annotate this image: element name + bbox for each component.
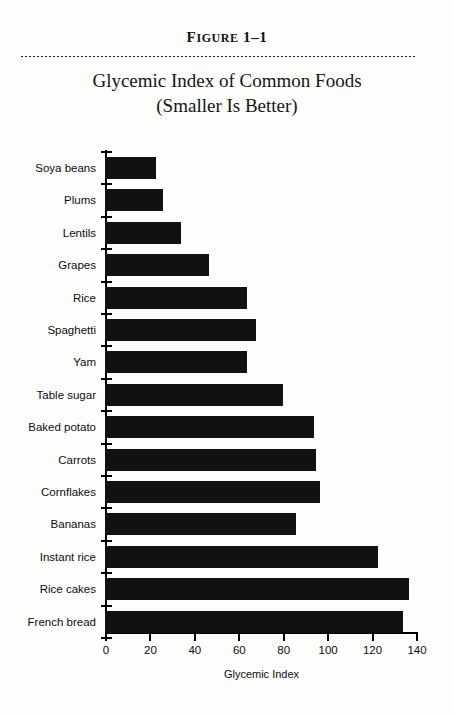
y-axis-tick [101,248,112,250]
y-axis-label: Rice [0,292,96,304]
y-axis-tick [101,281,112,283]
y-axis-label: Cornflakes [0,486,96,498]
x-axis-tick [283,632,285,641]
bar [105,222,181,244]
x-axis-tick [372,632,374,641]
y-axis-tick [101,507,112,509]
dotted-divider [20,55,416,58]
y-axis-label: Spaghetti [0,324,96,336]
bar [105,319,256,341]
y-axis-label: Table sugar [0,389,96,401]
bar [105,157,156,179]
y-axis-label: French bread [0,616,96,628]
y-axis-label: Rice cakes [0,583,96,595]
y-axis-tick [101,410,112,412]
y-axis-tick [101,443,112,445]
y-axis-label: Plums [0,194,96,206]
bar [105,189,163,211]
bar [105,254,209,276]
y-axis-tick [101,540,112,542]
bar [105,513,296,535]
x-axis-tick-label: 140 [407,644,426,656]
bar [105,611,403,633]
y-axis-tick [101,313,112,315]
x-axis-tick [194,632,196,641]
y-axis-label: Soya beans [0,162,96,174]
x-axis-tick [238,632,240,641]
y-axis-tick [101,605,112,607]
figure-page: FIGURE 1–1 Glycemic Index of Common Food… [0,0,454,717]
y-axis-label: Lentils [0,227,96,239]
bar [105,351,247,373]
bar [105,449,316,471]
figure-number-header: FIGURE 1–1 [0,28,454,46]
x-axis-tick [327,632,329,641]
y-axis-tick [101,151,112,153]
bar [105,578,409,600]
bar [105,481,320,503]
x-axis-tick-label: 20 [144,644,157,656]
x-axis-tick-label: 40 [188,644,201,656]
y-axis-tick [101,216,112,218]
figure-word-initial: F [187,29,197,45]
y-axis-tick [101,345,112,347]
figure-number-id: 1–1 [243,29,267,45]
x-axis-tick-label: 0 [103,644,109,656]
y-axis-tick [101,183,112,185]
x-axis-tick-label: 80 [277,644,290,656]
x-axis-title: Glycemic Index [105,668,418,680]
bar [105,546,378,568]
y-axis-label: Carrots [0,454,96,466]
figure-number-text: FIGURE 1–1 [187,29,268,45]
figure-title-primary: Glycemic Index of Common Foods [0,68,454,93]
y-axis-tick [101,572,112,574]
y-axis-label: Yam [0,356,96,368]
bar-chart: Soya beansPlumsLentilsGrapesRiceSpaghett… [0,140,454,700]
y-axis-label: Baked potato [0,421,96,433]
bar [105,416,314,438]
x-axis-tick [416,632,418,641]
y-axis-tick [101,378,112,380]
figure-title-secondary: (Smaller Is Better) [0,93,454,118]
x-axis-tick-label: 100 [319,644,338,656]
y-axis-label: Grapes [0,259,96,271]
figure-title: Glycemic Index of Common Foods (Smaller … [0,68,454,118]
figure-word-rest: IGURE [196,31,238,45]
x-axis-tick [149,632,151,641]
x-axis-tick-label: 120 [363,644,382,656]
y-axis-label: Bananas [0,518,96,530]
y-axis-label: Instant rice [0,551,96,563]
y-axis-tick [101,475,112,477]
x-axis-tick-label: 60 [233,644,246,656]
bar [105,287,247,309]
bar [105,384,283,406]
x-axis-tick [105,632,107,641]
